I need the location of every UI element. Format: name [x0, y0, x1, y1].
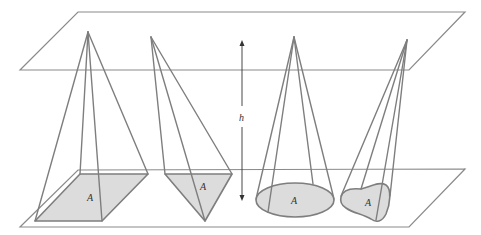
- circular-cone-base-label: A: [290, 195, 298, 206]
- arrow-up-icon: [240, 40, 245, 46]
- oblique-cone: A: [341, 40, 407, 221]
- square-pyramid: A: [35, 32, 148, 221]
- triangular-pyramid-base-label: A: [199, 181, 207, 192]
- square-pyramid-base-label: A: [86, 192, 94, 203]
- height-label: h: [239, 112, 244, 123]
- triangular-pyramid: A: [151, 37, 232, 221]
- oblique-cone-base-label: A: [364, 197, 372, 208]
- solids-between-parallel-planes-diagram: A A A A: [0, 0, 481, 235]
- diagram-canvas: A A A A: [0, 0, 481, 235]
- circular-cone: A: [256, 37, 334, 217]
- arrow-down-icon: [240, 195, 245, 201]
- height-arrow: h: [239, 40, 245, 201]
